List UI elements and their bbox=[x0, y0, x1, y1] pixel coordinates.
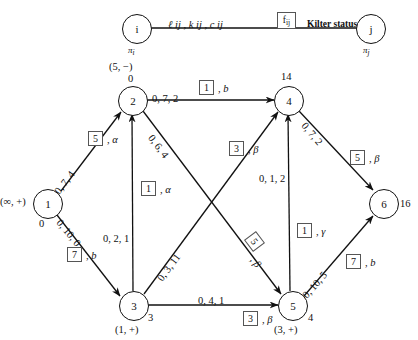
arc-3-4-status: , β bbox=[248, 145, 258, 156]
legend-node-i-potential: πi bbox=[128, 46, 135, 57]
node-1-label: 1 bbox=[45, 198, 51, 210]
diagram-canvas: i πi ℓ ij , k ij , c ij fij Kilter statu… bbox=[0, 0, 418, 340]
arc-3-5-flow: 3 bbox=[243, 311, 258, 326]
edge-5-4 bbox=[288, 114, 290, 291]
arc-1-3-status: , b bbox=[86, 251, 97, 262]
arc-2-4-status: , b bbox=[218, 84, 229, 95]
arc-4-6-status: , β bbox=[369, 154, 379, 165]
legend-node-i-label: i bbox=[135, 23, 138, 35]
arc-3-5-status: , β bbox=[262, 315, 272, 326]
node-5-tag: (3, +) bbox=[274, 325, 297, 336]
legend-arc-params: ℓ ij , k ij , c ij bbox=[168, 20, 223, 31]
legend-node-i: i bbox=[122, 14, 152, 44]
arc-3-2-params: 0, 2, 1 bbox=[103, 234, 129, 245]
node-6[interactable]: 6 bbox=[369, 189, 399, 219]
arc-2-4-params: 0, 7, 2 bbox=[152, 94, 178, 105]
node-6-potential: 16 bbox=[400, 199, 411, 210]
node-2-tag: (5, −) bbox=[109, 62, 132, 73]
arc-3-4-flow: 3 bbox=[229, 141, 244, 156]
arc-3-5-params: 0, 4, 1 bbox=[198, 296, 224, 307]
arc-1-2-status: , α bbox=[107, 135, 118, 146]
node-2-label: 2 bbox=[130, 95, 136, 107]
legend-node-j-potential: πj bbox=[363, 46, 370, 57]
arc-3-2-status: , α bbox=[160, 185, 171, 196]
arc-1-2-flow: 5 bbox=[88, 131, 103, 146]
node-4[interactable]: 4 bbox=[274, 86, 304, 116]
node-6-label: 6 bbox=[381, 198, 387, 210]
legend-status-label: Kilter status bbox=[307, 20, 357, 30]
legend-flow-box: fij bbox=[277, 12, 296, 29]
arc-4-6-flow: 5 bbox=[350, 150, 365, 165]
legend-node-j-label: j bbox=[369, 23, 372, 35]
arc-5-4-status: , γ bbox=[316, 227, 325, 238]
node-4-label: 4 bbox=[286, 95, 292, 107]
node-5-label: 5 bbox=[290, 300, 296, 312]
node-3-label: 3 bbox=[131, 300, 137, 312]
arc-1-3-flow: 7 bbox=[67, 247, 82, 262]
edge-3-2 bbox=[132, 114, 133, 291]
node-3-tag: (1, +) bbox=[115, 325, 138, 336]
node-4-potential: 14 bbox=[281, 72, 292, 83]
arc-5-4-flow: 1 bbox=[297, 223, 312, 238]
arc-5-4-params: 0, 1, 2 bbox=[259, 174, 285, 185]
node-1-tag: (∞, +) bbox=[0, 197, 26, 208]
arc-2-4-flow: 1 bbox=[199, 80, 214, 95]
arc-5-6-flow: 7 bbox=[346, 254, 361, 269]
node-2-potential: 0 bbox=[128, 74, 133, 85]
legend-node-j: j bbox=[356, 14, 386, 44]
node-5-potential: 4 bbox=[308, 313, 313, 324]
arc-5-6-status: , b bbox=[365, 258, 376, 269]
node-1-potential: 0 bbox=[39, 219, 44, 230]
arc-3-2-flow: 1 bbox=[141, 181, 156, 196]
diagram-edges-layer bbox=[0, 0, 418, 340]
node-3-potential: 3 bbox=[148, 313, 153, 324]
node-3[interactable]: 3 bbox=[119, 291, 149, 321]
node-2[interactable]: 2 bbox=[118, 86, 148, 116]
